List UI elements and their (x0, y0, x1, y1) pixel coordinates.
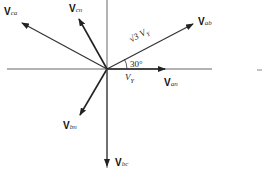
label-v-ca: Vca (4, 7, 17, 17)
angle-arc-30 (124, 59, 127, 69)
label-angle-30: 30° (130, 60, 143, 69)
label-v-an: Van (164, 78, 178, 88)
label-v-ab: Vab (198, 17, 212, 27)
label-phase-magnitude: VY (125, 73, 134, 84)
vector-v-bn (80, 69, 107, 115)
label-v-cn: Vcn (69, 4, 82, 14)
label-v-bc: Vbc (115, 158, 128, 168)
phasor-diagram-canvas (0, 0, 262, 177)
vector-v-ab (107, 24, 193, 69)
label-v-bn: Vbn (63, 121, 77, 131)
